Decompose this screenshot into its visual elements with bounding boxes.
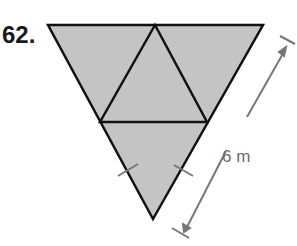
triangle-figure [0,0,297,246]
dimension-label: 6 m [222,147,250,167]
